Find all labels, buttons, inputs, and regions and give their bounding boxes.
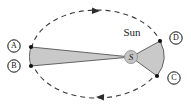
point-label-d-text: D: [173, 33, 179, 42]
orbit-arrow-bottom-icon: [96, 94, 104, 101]
sector-sab-shape: [29, 47, 131, 66]
point-label-b: B: [8, 60, 20, 72]
point-label-c-text: C: [171, 73, 176, 82]
point-label-b-text: B: [11, 61, 16, 70]
point-label-a: A: [8, 40, 20, 52]
sun-text-label: Sun: [123, 26, 141, 38]
orbit-point-b-dot: [29, 64, 33, 68]
orbit-diagram-canvas: S Sun A B C D: [0, 0, 191, 105]
orbit-point-c-dot: [155, 74, 159, 78]
kepler-second-law-figure: S Sun A B C D: [0, 0, 191, 105]
orbit-arrow-top-icon: [92, 8, 100, 15]
sun-focus-label: S: [129, 52, 134, 62]
point-label-c: C: [168, 72, 180, 84]
point-label-d: D: [170, 32, 182, 44]
point-label-a-text: A: [11, 41, 17, 50]
orbit-point-d-dot: [158, 39, 162, 43]
orbit-point-a-dot: [29, 45, 33, 49]
